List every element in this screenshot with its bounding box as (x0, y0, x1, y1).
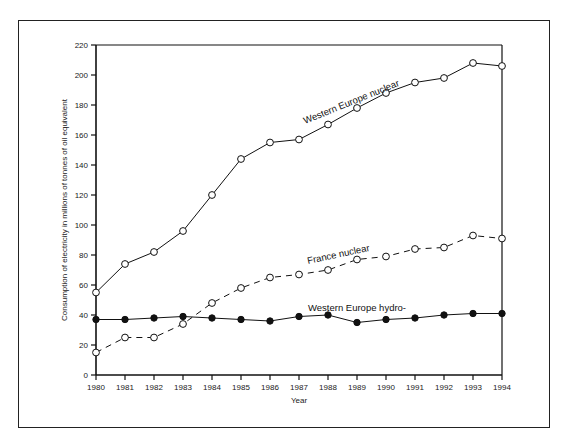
x-tick-label: 1984 (203, 383, 221, 392)
x-tick-label: 1985 (232, 383, 250, 392)
data-point (93, 349, 100, 356)
x-tick-label: 1983 (174, 383, 192, 392)
data-point (412, 246, 419, 253)
data-point (499, 310, 505, 316)
data-point (180, 228, 187, 235)
axes: 0204060801001201401601802002201980198119… (75, 41, 512, 392)
y-tick-label: 60 (79, 281, 88, 290)
label-france-nuclear: France nuclear (306, 242, 370, 266)
data-point (470, 60, 477, 67)
data-point (383, 253, 390, 260)
x-tick-label: 1988 (319, 383, 337, 392)
y-tick-label: 220 (75, 41, 89, 50)
data-point (441, 312, 447, 318)
x-tick-label: 1990 (377, 383, 395, 392)
y-axis-title: Consumption of electricity in millions o… (60, 98, 69, 321)
series-western-europe-nuclear (93, 60, 506, 296)
data-point (122, 334, 129, 341)
data-point (441, 244, 448, 251)
data-point (441, 75, 448, 82)
x-tick-label: 1989 (348, 383, 366, 392)
y-tick-label: 40 (79, 311, 88, 320)
x-tick-label: 1981 (116, 383, 134, 392)
y-tick-label: 120 (75, 191, 89, 200)
data-point (383, 316, 389, 322)
data-point (354, 256, 361, 263)
data-point (470, 310, 476, 316)
x-tick-label: 1994 (493, 383, 511, 392)
x-tick-label: 1982 (145, 383, 163, 392)
y-tick-label: 100 (75, 221, 89, 230)
data-point (122, 261, 129, 268)
data-point (354, 319, 360, 325)
data-point (296, 136, 303, 143)
data-point (122, 316, 128, 322)
data-point (267, 139, 274, 146)
line-chart: 0204060801001201401601802002201980198119… (0, 0, 563, 446)
x-tick-label: 1987 (290, 383, 308, 392)
y-tick-label: 180 (75, 101, 89, 110)
data-point (296, 313, 302, 319)
series-line (96, 63, 502, 293)
data-point (209, 315, 215, 321)
y-tick-label: 20 (79, 341, 88, 350)
data-point (325, 121, 332, 128)
data-point (470, 232, 477, 239)
y-tick-label: 140 (75, 161, 89, 170)
data-point (267, 274, 274, 281)
data-point (151, 315, 157, 321)
data-point (296, 271, 303, 278)
series-group (93, 60, 506, 356)
data-point (267, 318, 273, 324)
x-tick-label: 1980 (87, 383, 105, 392)
x-tick-label: 1993 (464, 383, 482, 392)
x-tick-label: 1986 (261, 383, 279, 392)
data-point (412, 315, 418, 321)
data-point (238, 316, 244, 322)
x-tick-label: 1991 (406, 383, 424, 392)
data-point (499, 235, 506, 242)
x-tick-label: 1992 (435, 383, 453, 392)
data-point (180, 321, 187, 328)
data-point (209, 192, 216, 199)
data-point (238, 285, 245, 292)
y-tick-label: 80 (79, 251, 88, 260)
data-point (93, 316, 99, 322)
data-point (238, 156, 245, 163)
y-tick-label: 200 (75, 71, 89, 80)
label-western-europe-hydro: Western Europe hydro- (308, 302, 406, 313)
y-tick-label: 160 (75, 131, 89, 140)
data-point (151, 334, 158, 341)
data-point (499, 63, 506, 70)
data-point (325, 267, 332, 274)
series-western-europe-hydro (93, 310, 505, 325)
data-point (412, 79, 419, 86)
x-axis-title: Year (291, 396, 308, 405)
data-point (93, 289, 100, 296)
data-point (209, 300, 216, 307)
data-point (180, 313, 186, 319)
y-tick-label: 0 (84, 371, 89, 380)
data-point (151, 249, 158, 256)
label-western-europe-nuclear: Western Europe nuclear (302, 77, 401, 126)
